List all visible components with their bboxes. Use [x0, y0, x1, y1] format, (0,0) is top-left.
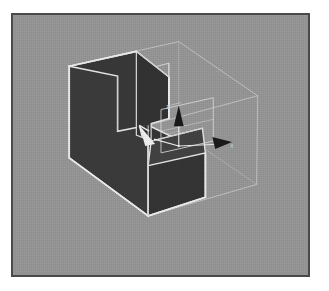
stepped-block-solid[interactable]	[69, 51, 205, 215]
viewport-canvas[interactable]	[13, 15, 308, 275]
cad-3d-viewport[interactable]: x z	[11, 13, 310, 277]
x-axis-label: x	[230, 142, 234, 149]
z-axis-label: z	[166, 103, 170, 110]
gizmo-origin-dot	[178, 145, 180, 147]
screenshot-root: x z	[0, 0, 329, 291]
